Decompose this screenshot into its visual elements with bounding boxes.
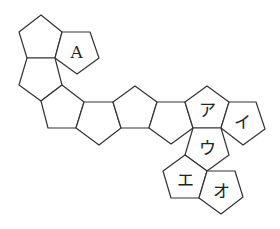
pentagon-face: [19, 15, 62, 58]
face-label: ウ: [199, 138, 216, 158]
pentagon-face: [76, 102, 121, 145]
face-label: ア: [199, 100, 216, 120]
face-label: エ: [177, 170, 194, 190]
face-label: イ: [234, 112, 251, 132]
pentagon-net-diagram: Aアイウエオ: [0, 0, 280, 229]
face-label: オ: [213, 181, 230, 201]
face-label: A: [69, 42, 83, 62]
